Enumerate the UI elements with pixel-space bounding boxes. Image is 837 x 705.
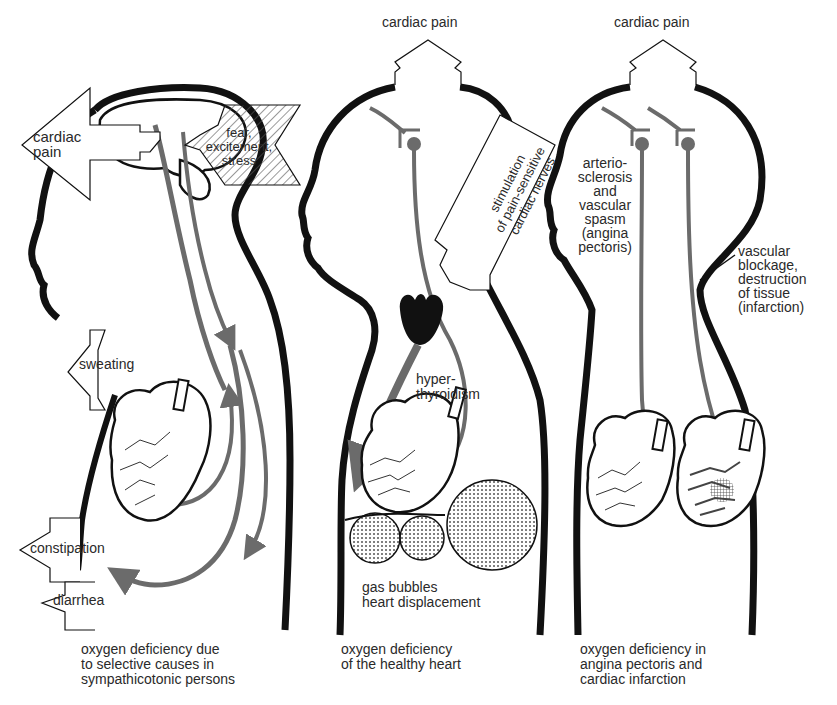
- thyroid-icon: [400, 294, 443, 345]
- heart-icon-2: [362, 387, 466, 512]
- caption-angina-infarction: oxygen deficiency in angina pectoris and…: [580, 642, 706, 687]
- caption-healthy-heart: oxygen deficiency of the healthy heart: [341, 642, 461, 672]
- back-outline-3: [695, 87, 762, 635]
- caption-sympathicotonic: oxygen deficiency due to selective cause…: [81, 642, 235, 687]
- label-sweating: sweating: [79, 357, 134, 372]
- label-hyperthyroidism: hyper- thyroidism: [416, 372, 480, 402]
- label-cardiac-pain-2: cardiac pain: [382, 15, 458, 30]
- label-cardiac-pain-3: cardiac pain: [614, 15, 690, 30]
- label-fear-excitement-stress: fear, excitement, stress: [197, 126, 281, 168]
- label-cardiac-pain-1: cardiac pain: [33, 129, 81, 159]
- heart-icon-3a: [587, 411, 674, 526]
- label-diarrhea: diarrhea: [53, 593, 104, 608]
- panel-healthy-heart: [302, 40, 555, 635]
- label-vascular-blockage: vascular blockage, destruction of tissue…: [738, 244, 806, 314]
- cardiac-pain-arrow-2: [395, 40, 461, 85]
- panel-angina-infarction: [547, 40, 764, 635]
- label-gas-bubbles: gas bubbles heart displacement: [362, 580, 480, 610]
- cardiac-pain-arrow-3: [630, 40, 696, 85]
- label-constipation: constipation: [30, 541, 105, 556]
- label-arteriosclerosis: arterio- sclerosis and vascular spasm (a…: [566, 156, 644, 254]
